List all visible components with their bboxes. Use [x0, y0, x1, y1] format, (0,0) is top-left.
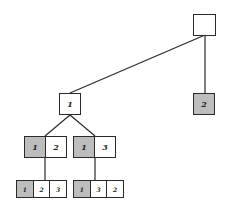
node-cell-shaded: 1 [74, 181, 91, 197]
node-cell-shaded: 1 [74, 137, 95, 157]
edge-n1-n12 [45, 115, 70, 136]
node-cell: 1 [60, 94, 80, 114]
tree-node-1: 1 [59, 93, 81, 115]
tree-node-1-3: 1 3 [73, 136, 116, 158]
tree-node-2: 2 [193, 93, 215, 115]
node-cell: 2 [34, 181, 51, 197]
edge-root-n1 [70, 35, 205, 93]
tree-node-1-2: 1 2 [24, 136, 67, 158]
node-cell: 2 [107, 181, 123, 197]
node-cell: 3 [95, 137, 115, 157]
node-cell: 2 [46, 137, 66, 157]
tree-node-1-3-2: 1 3 2 [73, 180, 124, 198]
edge-n1-n13 [70, 115, 95, 136]
node-cell: 3 [50, 181, 66, 197]
node-cell [194, 15, 215, 35]
tree-node-root [193, 14, 216, 36]
node-cell-shaded: 2 [194, 94, 214, 114]
tree-node-1-2-3: 1 2 3 [16, 180, 67, 198]
node-cell-shaded: 1 [17, 181, 34, 197]
node-cell-shaded: 1 [25, 137, 46, 157]
node-cell: 3 [91, 181, 108, 197]
